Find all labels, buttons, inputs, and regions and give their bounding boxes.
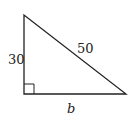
triangle-diagram: 30 50 b [0,0,136,133]
horizontal-leg-label: b [67,101,75,116]
vertical-leg-label: 30 [8,52,25,67]
right-angle-marker [24,84,34,94]
right-triangle [24,15,126,94]
hypotenuse-label: 50 [77,41,94,56]
